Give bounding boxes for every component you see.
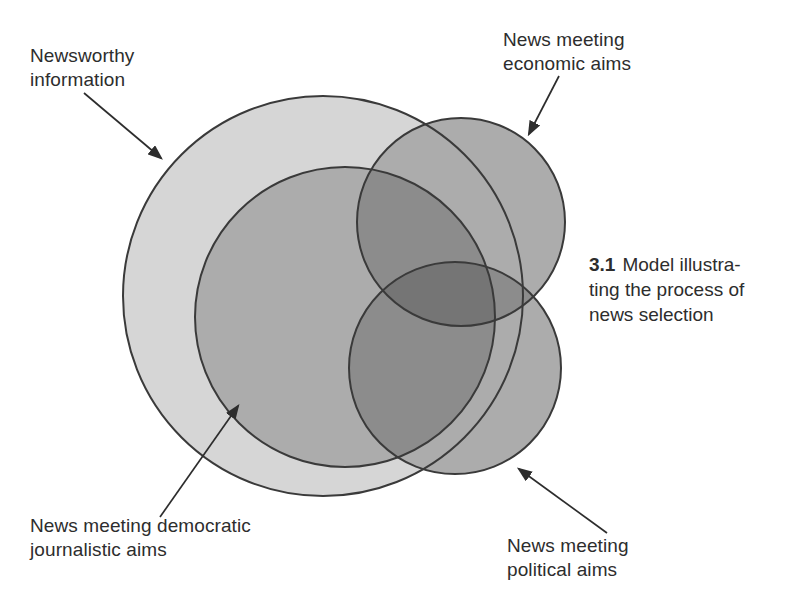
newsworthy-arrow	[84, 93, 161, 158]
economic-label-line2: economic aims	[503, 52, 631, 76]
figure-canvas: Newsworthy information News meeting econ…	[0, 0, 790, 611]
newsworthy-label: Newsworthy information	[30, 44, 134, 92]
figure-caption-line2: ting the process of	[589, 277, 744, 302]
figure-caption-line1: 3.1Model illustra-	[589, 252, 744, 277]
figure-caption: 3.1Model illustra- ting the process of n…	[589, 252, 744, 327]
democratic-label: News meeting democratic journalistic aim…	[30, 514, 251, 562]
political-label: News meeting political aims	[507, 534, 629, 582]
figure-caption-line1-text: Model illustra-	[622, 254, 740, 275]
democratic-label-line2: journalistic aims	[30, 538, 251, 562]
economic-label-line1: News meeting	[503, 28, 631, 52]
figure-number: 3.1	[589, 254, 615, 275]
figure-caption-line3: news selection	[589, 302, 744, 327]
economic-arrow	[529, 76, 559, 134]
democratic-label-line1: News meeting democratic	[30, 514, 251, 538]
political-label-line2: political aims	[507, 558, 629, 582]
economic-label: News meeting economic aims	[503, 28, 631, 76]
newsworthy-label-line1: Newsworthy	[30, 44, 134, 68]
newsworthy-label-line2: information	[30, 68, 134, 92]
political-arrow	[519, 469, 607, 533]
political-label-line1: News meeting	[507, 534, 629, 558]
